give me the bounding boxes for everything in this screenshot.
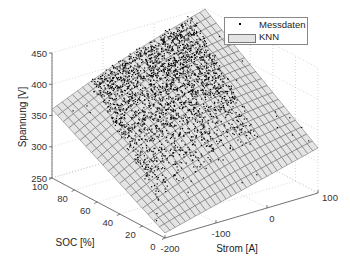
messdaten-marker-icon [239, 23, 241, 25]
z-tick-label: 300 [31, 141, 47, 152]
strom-axis-label: Strom [A] [216, 243, 258, 254]
soc-tick-label: 100 [32, 181, 48, 192]
knn-patch-icon [228, 34, 256, 43]
legend: Messdaten KNN [224, 17, 308, 45]
legend-label-messdaten: Messdaten [259, 19, 305, 30]
strom-tick-label: 0 [269, 213, 274, 224]
strom-tick-label: -200 [160, 243, 179, 254]
strom-tick-label: -100 [211, 228, 230, 239]
z-tick-label: 400 [31, 79, 47, 90]
soc-tick-label: 40 [103, 217, 114, 228]
strom-tick-label: 100 [322, 192, 338, 203]
soc-axis-label: SOC [%] [56, 237, 95, 248]
z-tick-label: 350 [31, 110, 47, 121]
z-tick-label: 450 [31, 48, 47, 59]
legend-label-knn: KNN [259, 31, 279, 42]
soc-tick-label: 0 [150, 241, 155, 252]
soc-tick-label: 20 [125, 229, 136, 240]
z-axis-label: Spannung [V] [17, 86, 28, 147]
soc-tick-label: 80 [57, 193, 68, 204]
soc-tick-label: 60 [80, 205, 91, 216]
